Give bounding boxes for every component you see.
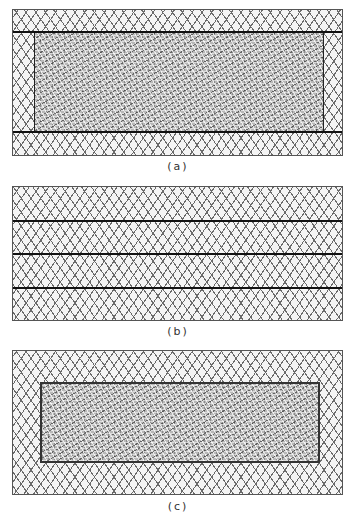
panel-c-caption: (c) — [0, 500, 356, 513]
panel-b — [12, 186, 343, 321]
panel-a-caption: (a) — [0, 160, 356, 173]
panel-a-bottom-boundary-line — [13, 131, 342, 133]
panel-a-textured-left-edge — [34, 33, 35, 132]
panel-c-textured-inclusion — [40, 382, 320, 463]
panel-a-textured-layer — [34, 33, 324, 132]
panel-c — [12, 350, 343, 495]
panel-b-line-2 — [13, 253, 342, 255]
panel-b-line-3 — [13, 287, 342, 289]
panel-a-textured-right-edge — [323, 33, 324, 132]
panel-b-caption: (b) — [0, 325, 356, 338]
panel-a — [12, 9, 343, 156]
panel-b-line-1 — [13, 220, 342, 222]
